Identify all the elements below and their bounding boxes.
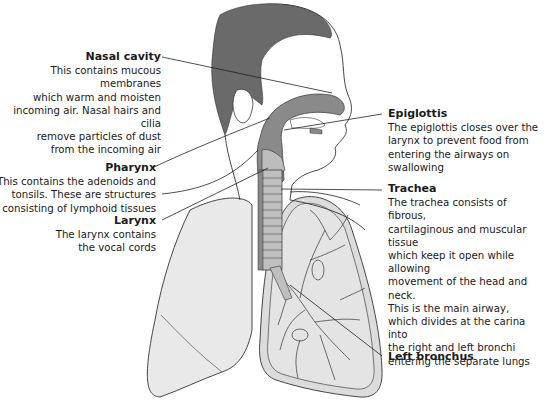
label-title: Pharynx xyxy=(0,161,156,174)
label-pharynx: Pharynx This contains the adenoids and t… xyxy=(0,161,156,215)
label-title: Trachea xyxy=(388,182,546,195)
label-left-bronchus: Left bronchus xyxy=(388,350,546,364)
label-body: This contains mucous membranes which war… xyxy=(0,64,161,156)
label-body: The epiglottis closes over the larynx to… xyxy=(388,121,546,174)
leader-trachea xyxy=(281,189,382,190)
label-body: This contains the adenoids and tonsils. … xyxy=(0,175,156,215)
right-lung xyxy=(147,198,252,397)
label-trachea: Trachea The trachea consists of fibrous,… xyxy=(388,182,546,368)
label-epiglottis: Epiglottis The epiglottis closes over th… xyxy=(388,107,546,174)
label-title: Nasal cavity xyxy=(0,50,161,63)
label-larynx: Larynx The larynx contains the vocal cor… xyxy=(0,214,156,255)
ear xyxy=(233,89,253,123)
label-title: Larynx xyxy=(0,214,156,227)
label-nasal-cavity: Nasal cavity This contains mucous membra… xyxy=(0,50,161,157)
label-body: The trachea consists of fibrous, cartila… xyxy=(388,196,546,368)
leader-pharynx xyxy=(152,118,270,168)
label-title: Epiglottis xyxy=(388,107,546,120)
label-body: The larynx contains the vocal cords xyxy=(0,228,156,254)
label-title: Left bronchus xyxy=(388,350,546,363)
